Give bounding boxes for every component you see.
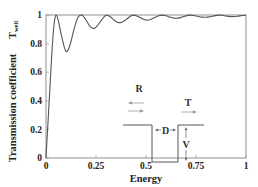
y-axis-title: Transmission coefficient [7, 53, 18, 162]
y-tick-label: 0.8 [30, 39, 42, 49]
depth-label: V [182, 139, 190, 150]
twell-symbol: T [7, 32, 18, 39]
x-tick-label: 1 [244, 161, 249, 171]
potential-well-inset: R T D V [123, 83, 204, 162]
x-axis-title: Energy [130, 173, 163, 184]
y-tick-label: 0.2 [30, 125, 42, 135]
transmission-chart: 00.250.50.751 00.20.40.60.81 Energy Tran… [0, 0, 258, 187]
y-tick-label: 0.6 [30, 67, 42, 77]
twell-subscript: well [12, 21, 19, 32]
y-tick-label: 1 [37, 10, 42, 20]
reflected-arrow-icon [128, 101, 144, 104]
incident-arrow-icon [128, 109, 144, 112]
x-tick-label: 0.5 [140, 161, 152, 171]
width-label: D [162, 125, 169, 136]
x-tick-label: 0.75 [188, 161, 205, 171]
plot-frame [46, 15, 246, 158]
transmission-curve [46, 15, 246, 158]
transmitted-label: T [185, 97, 192, 108]
x-tick-label: 0.25 [88, 161, 105, 171]
svg-text:Twell: Twell [7, 21, 19, 39]
x-tick-label: 0 [44, 161, 49, 171]
x-axis-ticks: 00.250.50.751 [44, 155, 249, 171]
y-tick-label: 0 [37, 153, 42, 163]
y-tick-label: 0.4 [30, 96, 42, 106]
y-axis-twell-label: Twell [7, 21, 19, 39]
transmitted-arrow-icon [181, 110, 197, 113]
reflected-label: R [135, 83, 143, 94]
